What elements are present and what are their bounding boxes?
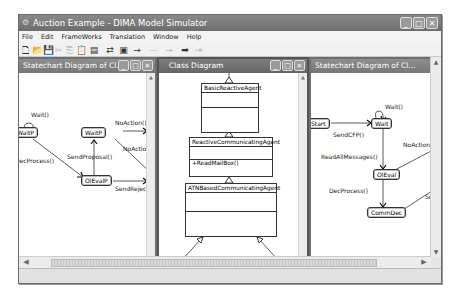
left-frame-close-button[interactable]: ✕ — [142, 60, 153, 71]
right-statechart-canvas[interactable]: Wait() Start Wait SendCFP() NoAction() R… — [311, 73, 431, 257]
minimize-button[interactable]: _ — [400, 17, 412, 29]
class-diagram-frame: Class Diagram _ □ ✕ — [157, 57, 309, 257]
transition-label: Wait() — [31, 111, 49, 118]
right-frame-title: Statechart Diagram of Cl... — [315, 61, 415, 70]
statechart-icon[interactable]: ⇄ — [103, 45, 117, 55]
class-methods — [202, 108, 258, 122]
menu-help[interactable]: Help — [187, 31, 202, 43]
class-frame-close-button[interactable]: ✕ — [294, 60, 305, 71]
right-transitions-svg — [311, 73, 431, 257]
left-frame-title: Statechart Diagram of Cl... — [23, 61, 123, 70]
left-statechart-frame: Statechart Diagram of Cl... _ □ ✕ — [19, 57, 157, 257]
paste-icon[interactable]: 📋 — [76, 45, 85, 55]
desktop-vscroll[interactable]: ▲ ▼ — [430, 57, 441, 257]
left-frame-titlebar[interactable]: Statechart Diagram of Cl... _ □ ✕ — [19, 59, 155, 73]
scroll-up-icon[interactable]: ▲ — [147, 73, 155, 81]
transition-icon[interactable]: → — [130, 45, 144, 55]
state-commdec[interactable]: CommDec — [367, 207, 406, 218]
class-attributes — [186, 193, 276, 212]
main-window: ⚙ Auction Example - DIMA Model Simulator… — [18, 14, 442, 284]
cut-icon[interactable]: ✂ — [54, 45, 63, 55]
left-transitions-svg — [19, 73, 155, 257]
scroll-left-icon[interactable]: ◀ — [21, 257, 31, 268]
menu-frameworks[interactable]: FrameWorks — [61, 31, 101, 43]
transition-label: SendProposal() — [67, 153, 112, 160]
class-methods: +ReadMailBox() — [190, 160, 272, 170]
transition-label: DecProcess() — [19, 157, 54, 164]
scroll-up-icon[interactable]: ▲ — [431, 57, 441, 67]
left-statechart-canvas[interactable]: Wait() WaitP WaitP NoAction() SendPropos… — [19, 73, 155, 257]
run-icon[interactable]: ➡ — [178, 45, 192, 55]
new-file-icon[interactable]: 🗋 — [21, 45, 30, 55]
class-box-icon[interactable]: ▣ — [119, 45, 128, 55]
class-name: ATNBasedCommunicatingAgent — [186, 184, 276, 193]
mdi-desktop: Statechart Diagram of Cl... _ □ ✕ — [19, 57, 431, 257]
class-name: ReactiveCommunicatingAgent — [190, 138, 272, 147]
scroll-up-icon[interactable]: ▲ — [299, 73, 307, 81]
right-statechart-frame: Statechart Diagram of Cl... Wait() Start — [309, 57, 431, 257]
class-frame-minimize-button[interactable]: _ — [270, 60, 281, 71]
state-wait[interactable]: Wait — [371, 118, 392, 129]
arrow-icon[interactable]: → — [162, 45, 176, 55]
transition-label: NoAction() — [403, 141, 431, 148]
line-icon[interactable]: — — [146, 45, 160, 55]
transition-label: ReadAllMessages() — [321, 153, 378, 160]
menu-translation[interactable]: Translation — [110, 31, 145, 43]
class-frame-titlebar[interactable]: Class Diagram _ □ ✕ — [159, 59, 307, 73]
hscroll-thumb[interactable] — [51, 259, 377, 267]
transition-label: NoAction() — [115, 119, 147, 126]
menu-window[interactable]: Window — [153, 31, 179, 43]
window-title: Auction Example - DIMA Model Simulator — [33, 18, 207, 28]
status-bar — [19, 268, 441, 283]
class-attributes — [190, 147, 272, 160]
scroll-right-icon[interactable]: ▶ — [419, 257, 429, 268]
menubar: File Edit FrameWorks Translation Window … — [19, 31, 441, 43]
close-button[interactable]: ✕ — [426, 17, 438, 29]
copy-icon[interactable]: ⎘ — [65, 45, 74, 55]
left-frame-maximize-button[interactable]: □ — [130, 60, 141, 71]
app-icon: ⚙ — [22, 19, 30, 27]
transition-label: DecProcess() — [329, 187, 368, 194]
scroll-down-icon[interactable]: ▼ — [431, 247, 441, 257]
class-frame-vscroll[interactable]: ▲ — [298, 73, 307, 257]
state-waitp[interactable]: WaitP — [81, 127, 106, 138]
class-basic-reactive-agent[interactable]: BasicReactiveAgent — [201, 83, 259, 133]
left-frame-vscroll[interactable]: ▲ — [146, 73, 155, 257]
class-diagram-canvas[interactable]: BasicReactiveAgent ReactiveCommunicating… — [159, 73, 307, 257]
class-diagram-icon[interactable]: ▤ — [87, 45, 101, 55]
class-reactive-communicating-agent[interactable]: ReactiveCommunicatingAgent +ReadMailBox(… — [189, 137, 273, 177]
right-frame-titlebar[interactable]: Statechart Diagram of Cl... — [311, 59, 431, 73]
class-name: BasicReactiveAgent — [202, 84, 258, 93]
step-icon[interactable]: ⇥ — [194, 45, 203, 55]
class-frame-title: Class Diagram — [163, 61, 223, 70]
state-waitp-left[interactable]: WaitP — [19, 127, 38, 138]
state-olevalp[interactable]: OlEvalP — [81, 175, 112, 186]
transition-label: Wait() — [385, 103, 403, 110]
open-folder-icon[interactable]: 📂 — [32, 45, 41, 55]
state-oleval[interactable]: OlEval — [373, 169, 400, 180]
class-attributes — [202, 93, 258, 108]
desktop-hscroll[interactable]: ◀ ▶ — [19, 256, 431, 268]
maximize-button[interactable]: □ — [413, 17, 425, 29]
toolbar: 🗋 📂 💾 ✂ ⎘ 📋 ▤ ⇄ ▣ → — → ➡ ⇥ — [19, 43, 441, 57]
save-icon[interactable]: 💾 — [43, 45, 52, 55]
state-start[interactable]: Start — [311, 118, 330, 129]
window-titlebar[interactable]: ⚙ Auction Example - DIMA Model Simulator… — [19, 15, 441, 31]
class-methods — [186, 212, 276, 230]
class-frame-maximize-button[interactable]: □ — [282, 60, 293, 71]
left-frame-minimize-button[interactable]: _ — [118, 60, 129, 71]
menu-edit[interactable]: Edit — [41, 31, 54, 43]
transition-label: SendCFP() — [333, 131, 364, 138]
menu-file[interactable]: File — [22, 31, 33, 43]
class-atn-based-communicating-agent[interactable]: ATNBasedCommunicatingAgent — [185, 183, 277, 237]
